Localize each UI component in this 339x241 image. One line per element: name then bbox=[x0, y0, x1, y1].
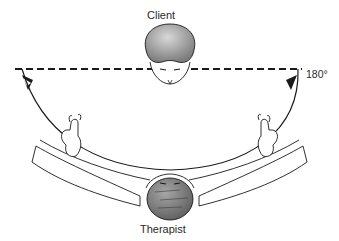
angle-label: 180° bbox=[306, 68, 328, 80]
left-hand bbox=[62, 114, 81, 156]
client-head bbox=[145, 24, 195, 84]
right-arrow-icon bbox=[286, 75, 297, 90]
client-label: Client bbox=[147, 9, 175, 21]
rotation-arc bbox=[22, 69, 298, 170]
therapist-head bbox=[146, 174, 194, 220]
therapist-label: Therapist bbox=[140, 223, 186, 235]
left-arrow-icon bbox=[22, 75, 33, 90]
diagram: Client Therapist 180° bbox=[0, 0, 339, 241]
diagram-svg bbox=[0, 0, 339, 241]
right-hand bbox=[258, 114, 277, 156]
